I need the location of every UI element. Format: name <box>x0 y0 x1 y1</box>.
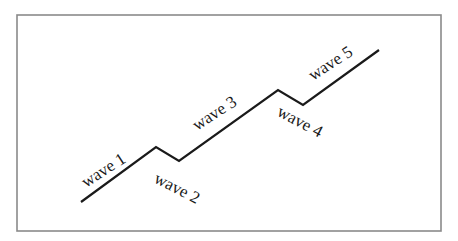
diagram-frame <box>17 15 441 231</box>
elliott-wave-diagram: wave 1 wave 2 wave 3 wave 4 wave 5 <box>0 0 458 241</box>
